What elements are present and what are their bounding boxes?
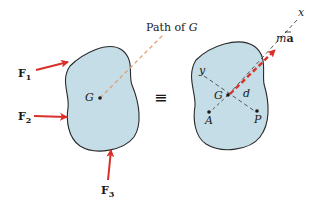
left-rigid-body	[65, 47, 139, 151]
equivalence-symbol: ≡	[154, 88, 167, 107]
left-center-of-mass-dot	[98, 96, 102, 100]
force-f1-label: F1	[18, 67, 31, 82]
left-center-of-mass-label: G	[85, 91, 94, 104]
force-f1-arrow	[36, 62, 68, 70]
path-of-g-label: Path of G	[146, 21, 198, 34]
force-f3-arrow	[108, 150, 111, 180]
point-a-label: A	[204, 114, 213, 127]
force-f3-label: F3	[101, 184, 115, 199]
x-axis-label: x	[298, 6, 305, 19]
right-center-of-mass-dot	[226, 93, 230, 97]
force-f2-label: F2	[18, 110, 31, 125]
force-f2-arrow	[34, 116, 67, 117]
distance-d-label: d	[243, 87, 250, 100]
inertia-vector-label: ma	[276, 32, 294, 45]
diagram-canvas: G Path of G F1 F2 F3 ≡ x y ma G d A P	[0, 0, 330, 203]
y-axis-label: y	[198, 64, 206, 77]
point-p-label: P	[253, 113, 262, 126]
right-center-of-mass-label: G	[214, 89, 223, 102]
right-rigid-body	[192, 42, 269, 150]
